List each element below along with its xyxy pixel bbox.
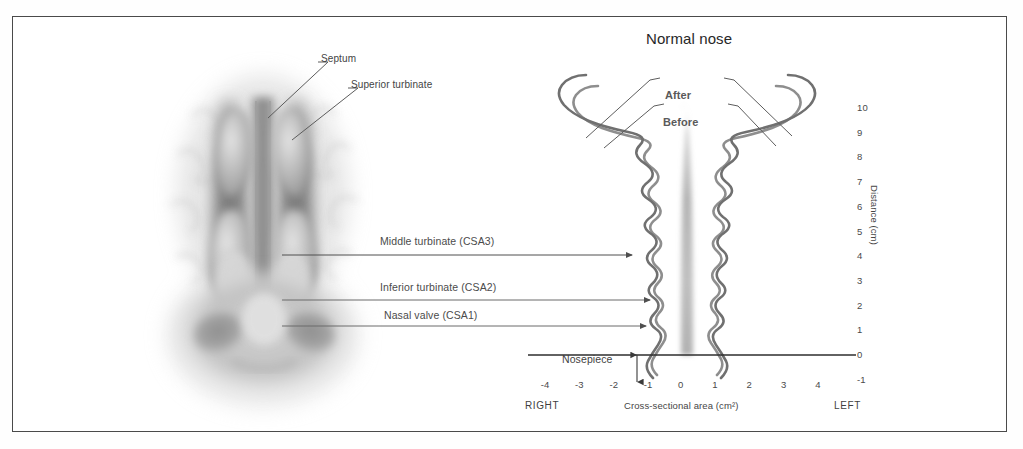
x-tick-0: 0 xyxy=(678,379,683,390)
y-tick-2: 2 xyxy=(857,300,862,311)
label-superior-turbinate: Superior turbinate xyxy=(351,79,432,90)
y-tick-7: 7 xyxy=(857,176,862,187)
x-tick--1: -1 xyxy=(644,379,653,390)
y-tick-0: 0 xyxy=(857,349,862,360)
y-tick-10: 10 xyxy=(857,102,868,113)
y-tick--1: -1 xyxy=(857,374,866,385)
anatomy-leader-lines xyxy=(120,40,420,180)
x-tick-2: 2 xyxy=(747,379,752,390)
label-septum: Septum xyxy=(321,53,356,64)
y-axis-title: Distance (cm) xyxy=(869,185,880,245)
curve-after-left xyxy=(713,75,815,378)
x-tick--4: -4 xyxy=(541,379,550,390)
y-tick-4: 4 xyxy=(857,250,862,261)
curve-group-left xyxy=(708,75,815,378)
y-tick-6: 6 xyxy=(857,201,862,212)
y-tick-5: 5 xyxy=(857,226,862,237)
x-tick--3: -3 xyxy=(575,379,584,390)
y-tick-8: 8 xyxy=(857,151,862,162)
label-before: Before xyxy=(663,116,698,128)
curve-group-right xyxy=(559,75,666,378)
side-label-right: RIGHT xyxy=(525,400,559,411)
x-tick-1: 1 xyxy=(712,379,717,390)
label-after: After xyxy=(665,89,691,101)
x-tick-3: 3 xyxy=(781,379,786,390)
y-tick-3: 3 xyxy=(857,275,862,286)
x-axis-title: Cross-sectional area (cm²) xyxy=(624,400,739,411)
septum-gradient-band xyxy=(681,104,693,355)
label-nosepiece: Nosepiece xyxy=(562,353,613,365)
figure-canvas: Septum Superior turbinate Middle turbina… xyxy=(0,0,1023,449)
y-tick-9: 9 xyxy=(857,127,862,138)
curve-after-right xyxy=(559,75,661,378)
x-tick--2: -2 xyxy=(609,379,618,390)
side-label-left: LEFT xyxy=(834,400,861,411)
x-tick-4: 4 xyxy=(815,379,820,390)
y-tick-1: 1 xyxy=(857,324,862,335)
